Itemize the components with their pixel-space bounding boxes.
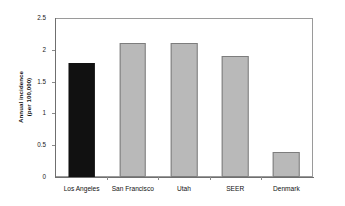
bars-layer bbox=[56, 18, 312, 177]
y-tick-label: 0.5 bbox=[0, 140, 52, 150]
bar[interactable] bbox=[68, 63, 95, 177]
y-tick-label: 1 bbox=[0, 108, 52, 118]
x-axis-category-label: Denmark bbox=[255, 183, 318, 195]
bar-chart: Annual incidence (per 100,000) 00.511.52… bbox=[0, 0, 345, 206]
bar-slot bbox=[56, 18, 107, 177]
y-tick-label: 2.5 bbox=[0, 13, 52, 23]
bar[interactable] bbox=[119, 43, 146, 177]
bar[interactable] bbox=[222, 56, 249, 177]
bar-slot bbox=[107, 18, 158, 177]
y-tick-mark bbox=[52, 145, 55, 146]
x-axis-line bbox=[55, 177, 314, 178]
y-tick-mark bbox=[52, 50, 55, 51]
x-tick-mark bbox=[158, 177, 159, 180]
bar[interactable] bbox=[273, 152, 300, 177]
y-tick-label: 2 bbox=[0, 45, 52, 55]
y-tick-label: 0 bbox=[0, 172, 52, 182]
y-tick-label: 1.5 bbox=[0, 77, 52, 87]
y-tick-mark bbox=[52, 82, 55, 83]
y-tick-mark bbox=[52, 113, 55, 114]
y-axis-title: Annual incidence (per 100,000) bbox=[14, 52, 36, 142]
x-tick-mark bbox=[210, 177, 211, 180]
x-tick-mark bbox=[107, 177, 108, 180]
bar[interactable] bbox=[171, 43, 198, 177]
bar-slot bbox=[210, 18, 261, 177]
bar-slot bbox=[158, 18, 209, 177]
x-tick-mark bbox=[261, 177, 262, 180]
bar-slot bbox=[261, 18, 312, 177]
